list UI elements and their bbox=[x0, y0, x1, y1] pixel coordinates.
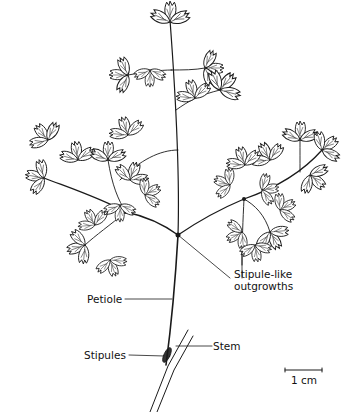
scale-bar-label: 1 cm bbox=[291, 374, 317, 386]
label-line-2: outgrowths bbox=[234, 280, 293, 292]
leaf-illustration bbox=[0, 0, 363, 412]
leaf-diagram: Stipule-like outgrowths Petiole Stem Sti… bbox=[0, 0, 363, 412]
label-stipule-like-outgrowths: Stipule-like outgrowths bbox=[234, 268, 293, 292]
label-stem: Stem bbox=[213, 340, 240, 352]
label-petiole: Petiole bbox=[87, 293, 122, 305]
label-stipules: Stipules bbox=[84, 349, 126, 361]
label-line-1: Stipule-like bbox=[234, 268, 293, 280]
